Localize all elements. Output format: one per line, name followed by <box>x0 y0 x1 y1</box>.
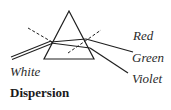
label-green: Green <box>132 51 164 64</box>
label-violet: Violet <box>132 72 162 85</box>
diagram-title: Dispersion <box>10 86 69 99</box>
violet-ray <box>90 48 128 73</box>
dispersion-diagram: Red Green Violet White Dispersion <box>0 0 171 110</box>
left-normal-line <box>28 28 52 42</box>
label-white: White <box>10 65 40 78</box>
label-red: Red <box>133 29 153 42</box>
